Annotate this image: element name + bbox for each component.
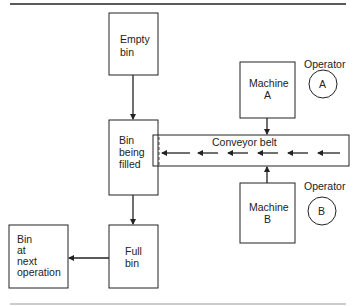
full-bin-node: Full bin xyxy=(109,225,158,288)
svg-text:Operator: Operator xyxy=(304,180,346,192)
svg-text:B: B xyxy=(318,205,325,217)
operator-a: Operator A xyxy=(304,58,346,98)
operator-b: Operator B xyxy=(304,180,346,225)
svg-text:Operator: Operator xyxy=(304,58,346,70)
machine-b-node: Machine B xyxy=(240,183,295,243)
conveyor-belt-node: Conveyor belt xyxy=(153,135,349,166)
bin-flow-diagram: Empty bin Conveyor belt Bin being filled… xyxy=(0,0,354,306)
svg-text:Empty: Empty xyxy=(120,33,151,45)
svg-text:being: being xyxy=(119,146,145,158)
bin-next-operation-node: Bin at next operation xyxy=(9,225,68,288)
svg-text:bin: bin xyxy=(120,46,134,58)
svg-text:Bin: Bin xyxy=(119,134,134,146)
svg-text:A: A xyxy=(319,78,326,90)
bin-being-filled-node: Bin being filled xyxy=(109,120,158,195)
svg-text:Machine: Machine xyxy=(249,201,289,213)
machine-a-node: Machine A xyxy=(240,62,295,118)
svg-text:bin: bin xyxy=(125,257,139,269)
svg-text:filled: filled xyxy=(119,158,141,170)
svg-text:Full: Full xyxy=(125,245,142,257)
svg-text:A: A xyxy=(264,89,271,101)
svg-text:B: B xyxy=(264,213,271,225)
svg-text:Machine: Machine xyxy=(249,77,289,89)
svg-text:Conveyor belt: Conveyor belt xyxy=(212,136,277,148)
empty-bin-node: Empty bin xyxy=(109,13,158,75)
svg-text:operation: operation xyxy=(17,266,61,278)
